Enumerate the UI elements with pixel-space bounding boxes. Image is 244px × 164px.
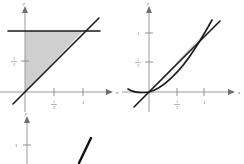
chart-left-triangle-region: x y 1 2 1 1 2 xyxy=(0,0,122,112)
x-ticklabel-one: 1 xyxy=(82,100,85,105)
y-axis-arrow xyxy=(24,116,30,123)
svg-text:2: 2 xyxy=(13,63,15,67)
svg-text:1: 1 xyxy=(137,58,139,62)
y-axis-label: y xyxy=(24,111,28,116)
svg-text:2: 2 xyxy=(53,106,55,110)
svg-text:1: 1 xyxy=(53,100,55,104)
x-axis-label: x xyxy=(115,90,119,95)
y-axis-arrow xyxy=(146,6,152,13)
y-axis-label: y xyxy=(146,1,150,6)
y-ticklabel-one: 1 xyxy=(137,31,140,36)
x-ticklabel-half: 1 2 xyxy=(174,100,180,110)
svg-text:1: 1 xyxy=(13,57,15,61)
parabola-y-equals-x-squared xyxy=(128,20,212,93)
y-axis-arrow xyxy=(22,6,28,13)
svg-text:2: 2 xyxy=(137,64,139,68)
figure-sheet: x y 1 2 1 1 2 xyxy=(0,0,244,164)
x-ticklabel-one: 1 xyxy=(203,100,206,105)
x-axis-arrow xyxy=(228,89,235,95)
svg-text:1: 1 xyxy=(176,100,178,104)
y-axis-label: y xyxy=(22,1,26,6)
x-axis-arrow xyxy=(106,89,113,95)
x-ticklabel-half: 1 2 xyxy=(51,100,57,110)
chart-bottom-partial-plot: y 1 xyxy=(0,112,122,164)
y-ticklabel-half: 1 2 xyxy=(135,58,141,68)
steep-segment xyxy=(79,138,91,163)
y-ticklabel-one: 1 xyxy=(15,143,18,148)
chart-right-parabola-region: x y 1 2 1 1 2 1 xyxy=(122,0,244,112)
x-axis-label: x xyxy=(237,90,241,95)
svg-text:2: 2 xyxy=(176,106,178,110)
y-ticklabel-half: 1 2 xyxy=(11,57,17,67)
